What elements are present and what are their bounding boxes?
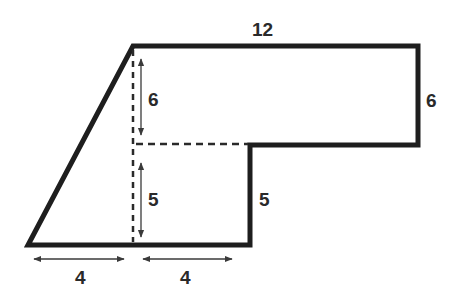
shape-outline (28, 46, 418, 245)
label-right-lower-height: 5 (259, 190, 270, 209)
diagram-svg (0, 0, 458, 297)
label-inner-upper-height: 6 (148, 90, 159, 109)
label-bottom-right-length: 4 (180, 268, 191, 287)
label-top-length: 12 (252, 20, 273, 39)
label-inner-lower-height: 5 (148, 190, 159, 209)
label-bottom-left-length: 4 (75, 268, 86, 287)
label-right-upper-height: 6 (426, 91, 437, 110)
composite-shape-diagram: 12 6 6 5 5 4 4 (0, 0, 458, 297)
